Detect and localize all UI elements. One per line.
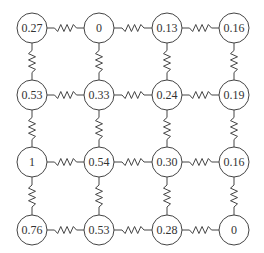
- node-value: 0: [96, 21, 102, 35]
- spring-v-r2-c3: [231, 177, 238, 215]
- spring-h-r3-c1: [114, 227, 152, 234]
- node-r2-c1: 0.54: [84, 147, 114, 177]
- spring-h-r2-c2: [182, 159, 219, 166]
- resistor-grid-diagram: 0.27 0 0.13 0.16 0.53 0.33 0.24 0.19 1 0…: [0, 0, 264, 253]
- spring-v-r0-c1: [96, 43, 103, 80]
- node-value: 0.24: [157, 88, 178, 102]
- node-r2-c3: 0.16: [219, 147, 249, 177]
- spring-v-r0-c3: [231, 43, 238, 80]
- spring-v-r1-c0: [29, 110, 36, 147]
- node-r1-c2: 0.24: [152, 80, 182, 110]
- node-value: 1: [29, 155, 35, 169]
- node-value: 0.76: [22, 223, 43, 237]
- spring-h-r1-c2: [182, 92, 219, 99]
- springs-layer: [29, 25, 238, 234]
- node-value: 0.27: [22, 21, 43, 35]
- spring-h-r0-c0: [47, 25, 84, 32]
- node-r3-c3: 0: [219, 215, 249, 245]
- spring-v-r1-c3: [231, 110, 238, 147]
- node-r2-c0: 1: [17, 147, 47, 177]
- node-r1-c1: 0.33: [84, 80, 114, 110]
- nodes-layer: 0.27 0 0.13 0.16 0.53 0.33 0.24 0.19 1 0…: [17, 13, 249, 245]
- spring-h-r3-c2: [182, 227, 219, 234]
- node-value: 0.16: [224, 155, 245, 169]
- node-value: 0.33: [89, 88, 110, 102]
- spring-v-r1-c2: [164, 110, 171, 147]
- node-value: 0.53: [22, 88, 43, 102]
- spring-h-r3-c0: [47, 227, 84, 234]
- node-r2-c2: 0.30: [152, 147, 182, 177]
- spring-h-r0-c2: [182, 25, 219, 32]
- spring-v-r2-c2: [164, 177, 171, 215]
- spring-h-r1-c0: [47, 92, 84, 99]
- node-r0-c3: 0.16: [219, 13, 249, 43]
- spring-v-r2-c1: [96, 177, 103, 215]
- node-r1-c3: 0.19: [219, 80, 249, 110]
- spring-h-r2-c1: [114, 159, 152, 166]
- spring-h-r1-c1: [114, 92, 152, 99]
- spring-v-r0-c0: [29, 43, 36, 80]
- node-value: 0.19: [224, 88, 245, 102]
- node-r3-c1: 0.53: [84, 215, 114, 245]
- node-r3-c0: 0.76: [17, 215, 47, 245]
- spring-v-r2-c0: [29, 177, 36, 215]
- spring-h-r0-c1: [114, 25, 152, 32]
- node-value: 0.30: [157, 155, 178, 169]
- node-r3-c2: 0.28: [152, 215, 182, 245]
- node-r1-c0: 0.53: [17, 80, 47, 110]
- node-value: 0.28: [157, 223, 178, 237]
- node-r0-c2: 0.13: [152, 13, 182, 43]
- node-value: 0: [231, 223, 237, 237]
- spring-h-r2-c0: [47, 159, 84, 166]
- spring-v-r0-c2: [164, 43, 171, 80]
- node-value: 0.16: [224, 21, 245, 35]
- spring-v-r1-c1: [96, 110, 103, 147]
- grid-canvas: 0.27 0 0.13 0.16 0.53 0.33 0.24 0.19 1 0…: [0, 0, 264, 253]
- node-r0-c0: 0.27: [17, 13, 47, 43]
- node-value: 0.53: [89, 223, 110, 237]
- node-value: 0.54: [89, 155, 110, 169]
- node-r0-c1: 0: [84, 13, 114, 43]
- node-value: 0.13: [157, 21, 178, 35]
